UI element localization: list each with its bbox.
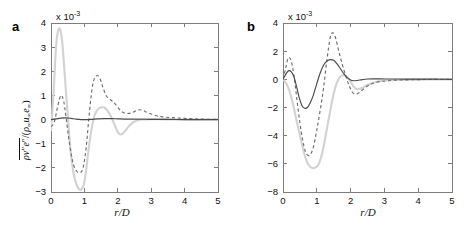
x-tick-label: 1	[82, 195, 87, 206]
x-tick-label: 4	[416, 195, 421, 206]
x-tick-label: 4	[182, 195, 187, 206]
x-tick-label: 3	[382, 195, 387, 206]
data-curve-light-gray	[283, 75, 452, 168]
panel-b-xaxis-title: r/D	[360, 206, 375, 218]
x-tick-label: 1	[314, 195, 319, 206]
y-tick-label: −2	[35, 162, 46, 173]
x-tick-label: 5	[215, 195, 220, 206]
y-tick-label: −6	[267, 158, 278, 169]
y-tick-label: −1	[35, 138, 46, 149]
panel-a-xaxis-title: r/D	[114, 206, 129, 218]
panel-a-yaxis-title: ρv″e″/(ρ∞u∞e∞)	[19, 100, 32, 160]
y-tick-label: 4	[273, 17, 278, 28]
y-tick-label: 1	[41, 90, 46, 101]
y-tick-label: 4	[41, 17, 46, 28]
x-tick-label: 2	[348, 195, 353, 206]
panel-a-plot: 012345−3−2−101234	[0, 0, 236, 241]
data-curve-light-gray	[51, 28, 218, 190]
y-tick-label: 3	[41, 42, 46, 53]
y-tick-label: −2	[267, 102, 278, 113]
y-tick-label: 0	[41, 114, 46, 125]
x-tick-label: 5	[449, 195, 454, 206]
panel-a: a x 10-3 012345−3−2−101234 r/D ρv″e″/(ρ∞…	[0, 0, 236, 241]
panel-b: b x 10-3 012345−8−6−4−2024 r/D ρur″e″/(ρ…	[235, 0, 471, 241]
y-tick-label: −8	[267, 186, 278, 197]
y-tick-label: 2	[273, 46, 278, 57]
y-tick-label: 0	[273, 74, 278, 85]
x-tick-label: 3	[149, 195, 154, 206]
y-tick-label: 2	[41, 66, 46, 77]
x-tick-label: 2	[115, 195, 120, 206]
x-tick-label: 0	[48, 195, 53, 206]
y-tick-label: −4	[267, 130, 278, 141]
data-curve-dashed-gray	[283, 33, 452, 156]
data-curve-dashed-gray	[51, 75, 218, 172]
x-tick-label: 0	[280, 195, 285, 206]
figure-container: a x 10-3 012345−3−2−101234 r/D ρv″e″/(ρ∞…	[0, 0, 471, 241]
y-tick-label: −3	[35, 186, 46, 197]
panel-b-plot: 012345−8−6−4−2024	[235, 0, 471, 241]
